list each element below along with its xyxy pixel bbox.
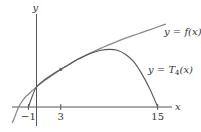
- tangent-point-marker: [59, 68, 62, 71]
- x-tick-label: −1: [21, 111, 36, 122]
- x-axis-label: x: [175, 101, 181, 112]
- series-line-f: [12, 24, 166, 123]
- taylor-polynomial-chart: x y −1315 y = f(x) y = T4(x): [0, 0, 201, 132]
- label-t-pre: y =: [147, 64, 168, 75]
- y-axis-label: y: [32, 2, 39, 13]
- series-label-f: y = f(x): [163, 26, 201, 37]
- series-label-t4: y = T4(x): [147, 64, 193, 77]
- x-tick-label: 3: [58, 111, 64, 122]
- label-f-arg: (x): [188, 26, 201, 37]
- label-f-pre: y =: [163, 26, 184, 37]
- x-tick-label: 15: [151, 111, 164, 122]
- label-t-arg: (x): [180, 64, 194, 75]
